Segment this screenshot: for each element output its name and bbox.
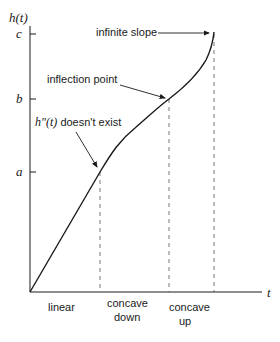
region-concave-up-line1: concave bbox=[169, 301, 210, 313]
infinite-slope-label: infinite slope bbox=[96, 26, 157, 38]
region-linear-label: linear bbox=[48, 301, 75, 313]
region-concave-up-line2: up bbox=[179, 315, 191, 327]
x-axis-label: t bbox=[267, 285, 271, 300]
h-double-prime-arrow bbox=[76, 132, 97, 167]
h-curve bbox=[30, 32, 214, 292]
inflection-point-label: inflection point bbox=[47, 73, 117, 85]
inflection-point-arrow bbox=[120, 85, 165, 98]
doesnt-exist-text: doesn't exist bbox=[57, 116, 121, 128]
diagram-canvas: h(t) t c b a infinite slope inflection p… bbox=[0, 0, 280, 342]
tick-label-b: b bbox=[16, 91, 23, 106]
h-double-prime-label: h″(t) doesn't exist bbox=[35, 115, 121, 129]
tick-label-a: a bbox=[16, 164, 23, 179]
h-double-prime-symbol: h″(t) bbox=[35, 115, 57, 129]
tick-label-c: c bbox=[16, 26, 22, 41]
region-concave-down-line2: down bbox=[114, 311, 140, 323]
y-axis-label: h(t) bbox=[9, 10, 28, 25]
region-concave-down-line1: concave bbox=[107, 297, 148, 309]
